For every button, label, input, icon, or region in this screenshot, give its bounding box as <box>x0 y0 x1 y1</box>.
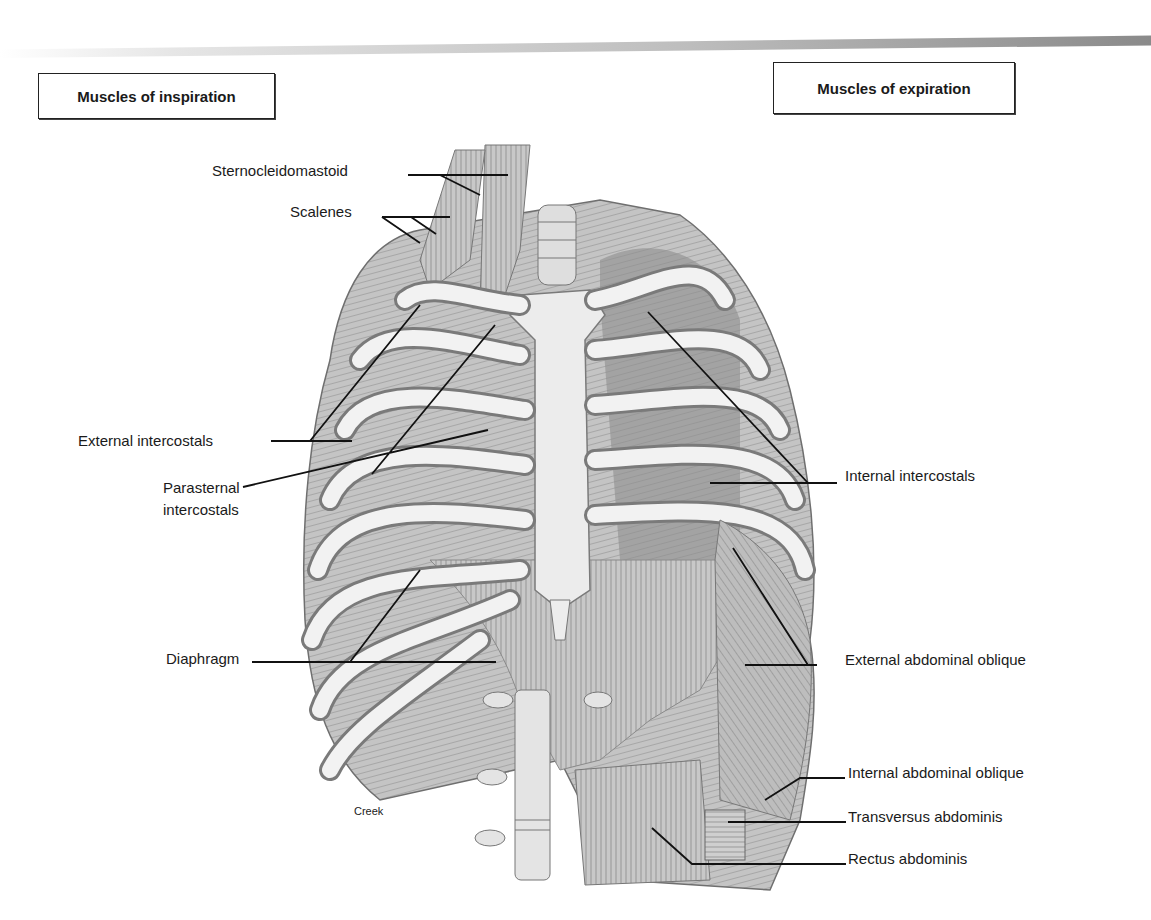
label-parasternal-intercostals-line1: Parasternal <box>163 479 240 497</box>
label-sternocleidomastoid: Sternocleidomastoid <box>212 162 348 180</box>
label-transversus-abdominis: Transversus abdominis <box>848 808 1003 826</box>
label-scalenes: Scalenes <box>290 203 352 221</box>
rectus-abdominis-muscle <box>575 760 710 885</box>
label-parasternal-intercostals-line2: intercostals <box>163 501 239 519</box>
label-diaphragm: Diaphragm <box>166 650 239 668</box>
ribcage-illustration <box>0 0 1151 920</box>
transversus-abdominis-window <box>705 810 745 860</box>
label-internal-intercostals: Internal intercostals <box>845 467 975 485</box>
label-external-abdominal-oblique: External abdominal oblique <box>845 651 1026 669</box>
trachea <box>538 205 576 285</box>
label-external-intercostals: External intercostals <box>78 432 213 450</box>
label-rectus-abdominis: Rectus abdominis <box>848 850 967 868</box>
artist-credit: Creek <box>354 805 383 817</box>
label-internal-abdominal-oblique: Internal abdominal oblique <box>848 764 1024 782</box>
